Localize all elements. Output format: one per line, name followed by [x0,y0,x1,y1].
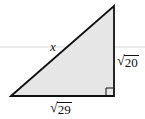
vertical-leg-label: √20 [117,54,139,69]
triangle-shape [11,6,114,96]
hypotenuse-label: x [50,40,56,53]
right-triangle-diagram: x √20 √29 [0,0,145,119]
vertical-leg-radicand: 20 [124,55,139,69]
horizontal-leg-label: √29 [50,101,72,116]
horizontal-leg-radicand: 29 [57,102,72,116]
